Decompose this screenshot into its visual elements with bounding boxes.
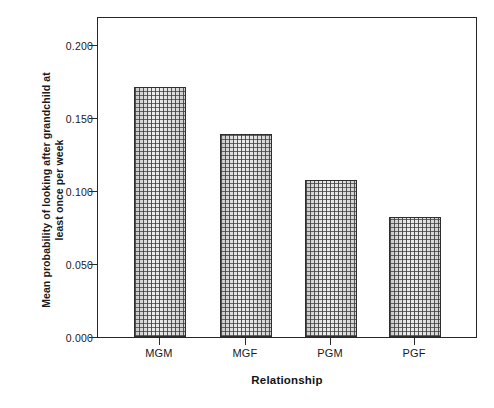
x-tick-mark-mgm xyxy=(159,338,160,345)
x-tick-label-mgm: MGM xyxy=(114,347,204,359)
y-axis-tick-labels: 0.200 0.150 0.100 0.050 0.000 xyxy=(47,0,93,408)
x-tick-label-mgf: MGF xyxy=(200,347,290,359)
x-axis-title: Relationship xyxy=(97,374,477,386)
y-tick-label-0100: 0.100 xyxy=(47,186,93,198)
bar-chart-figure: Mean probability of looking after grandc… xyxy=(0,0,494,408)
y-tick-mark-0150 xyxy=(89,118,97,119)
x-tick-mark-pgf xyxy=(414,338,415,345)
bar-pgf xyxy=(389,217,441,337)
y-tick-label-0050: 0.050 xyxy=(47,259,93,271)
y-tick-mark-0100 xyxy=(89,191,97,192)
y-tick-mark-0050 xyxy=(89,264,97,265)
y-tick-label-0200: 0.200 xyxy=(47,40,93,52)
x-tick-mark-mgf xyxy=(245,338,246,345)
bar-mgf xyxy=(220,134,272,337)
x-tick-label-pgm: PGM xyxy=(285,347,375,359)
bar-mgm xyxy=(134,87,186,337)
y-tick-label-0000: 0.000 xyxy=(47,332,93,344)
y-tick-mark-0000 xyxy=(89,337,97,338)
bar-pgm xyxy=(305,180,357,337)
x-tick-label-pgf: PGF xyxy=(369,347,459,359)
plot-area xyxy=(97,17,477,338)
x-tick-mark-pgm xyxy=(330,338,331,345)
caption-remnant xyxy=(14,399,480,408)
y-tick-label-0150: 0.150 xyxy=(47,113,93,125)
y-tick-mark-0200 xyxy=(89,45,97,46)
